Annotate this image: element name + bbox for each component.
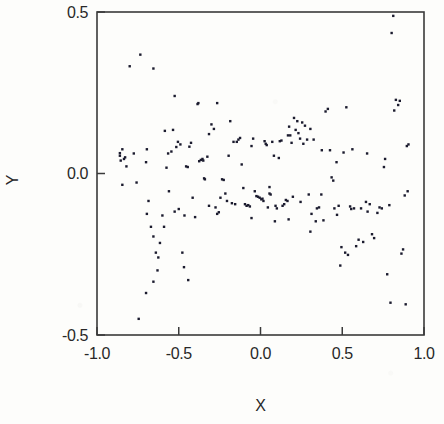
data-point — [124, 156, 126, 158]
data-point — [161, 214, 163, 216]
data-point — [274, 205, 276, 207]
data-point — [204, 178, 206, 180]
data-point — [290, 142, 292, 144]
data-point — [266, 144, 268, 146]
data-point — [316, 207, 318, 209]
data-point — [165, 166, 167, 168]
data-point — [332, 179, 334, 181]
data-point — [177, 141, 179, 143]
data-point — [309, 128, 311, 130]
data-point — [355, 245, 357, 247]
y-tick-label-upper: 0.5 — [67, 4, 89, 21]
data-point — [268, 186, 270, 188]
data-point — [262, 200, 264, 202]
data-point — [229, 120, 231, 122]
data-point — [392, 15, 394, 17]
data-point — [135, 181, 137, 183]
data-point — [365, 201, 367, 203]
data-point — [376, 212, 378, 214]
data-point — [249, 205, 251, 207]
data-point — [289, 134, 291, 136]
data-point — [288, 125, 290, 127]
data-point — [349, 205, 351, 207]
y-axis-ticks — [97, 12, 105, 335]
data-point — [342, 151, 344, 153]
data-point — [357, 239, 359, 241]
data-points-layer — [119, 15, 410, 320]
plot-frame — [97, 12, 424, 335]
data-point — [170, 150, 172, 152]
data-point — [164, 130, 166, 132]
data-point — [234, 203, 236, 205]
data-point — [254, 190, 256, 192]
data-point — [324, 110, 326, 112]
data-point — [390, 32, 392, 34]
data-point — [322, 219, 324, 221]
data-point — [321, 149, 323, 151]
data-point — [213, 128, 215, 130]
data-point — [137, 318, 139, 320]
data-point — [183, 214, 185, 216]
data-point — [179, 143, 181, 145]
data-point — [294, 129, 296, 131]
data-point — [168, 190, 170, 192]
data-point — [208, 133, 210, 135]
data-point — [271, 141, 273, 143]
data-point — [351, 148, 353, 150]
data-point — [227, 155, 229, 157]
data-point — [145, 292, 147, 294]
data-point — [274, 220, 276, 222]
scatter-plot-figure: 0.5 0.0 -0.5 -1.0 -0.5 0.0 0.5 1.0 X Y — [0, 0, 444, 424]
data-point — [407, 143, 409, 145]
data-point — [366, 152, 368, 154]
data-point — [329, 149, 331, 151]
data-point — [369, 203, 371, 205]
data-point — [335, 161, 337, 163]
data-point — [226, 200, 228, 202]
data-point — [339, 264, 341, 266]
data-point — [315, 220, 317, 222]
x-tick-label-3: 0.0 — [250, 345, 272, 362]
data-point — [173, 210, 175, 212]
data-point — [389, 302, 391, 304]
data-point — [337, 205, 339, 207]
data-point — [157, 256, 159, 258]
data-point — [152, 67, 154, 69]
data-point — [188, 145, 190, 147]
data-point — [406, 190, 408, 192]
x-tick-label-1: -1.0 — [84, 345, 110, 362]
data-point — [336, 214, 338, 216]
data-point — [278, 157, 280, 159]
x-tick-label-5: 1.0 — [413, 345, 435, 362]
data-point — [395, 99, 397, 101]
data-point — [218, 211, 220, 213]
plot-canvas: 0.5 0.0 -0.5 -1.0 -0.5 0.0 0.5 1.0 X Y — [0, 0, 444, 424]
data-point — [383, 166, 385, 168]
data-point — [310, 213, 312, 215]
data-point — [145, 161, 147, 163]
data-point — [183, 266, 185, 268]
data-point — [175, 146, 177, 148]
x-tick-label-4: 0.5 — [332, 345, 354, 362]
data-point — [296, 120, 298, 122]
data-point — [239, 137, 241, 139]
data-point — [306, 138, 308, 140]
data-point — [399, 100, 401, 102]
data-point — [120, 159, 122, 161]
data-point — [219, 197, 221, 199]
data-point — [371, 233, 373, 235]
data-point — [263, 140, 265, 142]
data-point — [121, 184, 123, 186]
data-point — [388, 204, 390, 206]
data-point — [304, 125, 306, 127]
data-point — [202, 159, 204, 161]
data-point — [276, 207, 278, 209]
data-point — [172, 129, 174, 131]
x-tick-label-2: -0.5 — [166, 345, 192, 362]
data-point — [297, 132, 299, 134]
data-point — [269, 193, 271, 195]
data-point — [167, 152, 169, 154]
y-axis-title: Y — [4, 174, 21, 185]
data-point — [181, 251, 183, 253]
data-point — [152, 281, 154, 283]
